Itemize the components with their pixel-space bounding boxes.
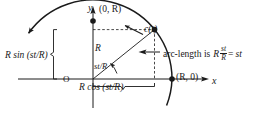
- angle-arc: [111, 64, 118, 74]
- arclength-fraction: st R: [220, 45, 227, 62]
- y-axis-label: y: [88, 3, 92, 13]
- arclength-annotation: arc-length isR st R =st: [163, 45, 242, 62]
- horizontal-leg-text: R cos (st/R): [79, 82, 123, 92]
- x-axis-label: x: [212, 76, 216, 86]
- arclength-prefix: arc-length is: [163, 49, 210, 59]
- origin-label: O: [63, 75, 70, 84]
- horizontal-leg-label: R cos (st/R): [79, 83, 123, 93]
- point-marker-right: [169, 76, 175, 82]
- point-marker-top: [90, 18, 96, 24]
- arclength-coefficient: R: [213, 49, 219, 59]
- radius-segment: [93, 30, 155, 79]
- radius-label: R: [95, 44, 101, 54]
- point-label-right: (R, 0): [176, 73, 198, 83]
- point-label-top: (0, R): [99, 5, 121, 15]
- arc-lower-segment: [167, 79, 172, 106]
- arclength-result: st: [235, 49, 241, 59]
- arclength-equals: =: [228, 49, 233, 59]
- arc-length-diagram: y x O (0, R) (R, 0) c(t) R st/R R sin (s…: [0, 0, 257, 117]
- vertical-brace: [51, 30, 58, 79]
- vertical-leg-label: R sin (st/R): [5, 51, 48, 61]
- curve-point-label: c(t): [144, 25, 157, 35]
- arclength-leader: [139, 49, 161, 54]
- vertical-leg-text: R sin (st/R): [5, 50, 48, 60]
- arclength-fraction-denominator: R: [220, 54, 227, 62]
- angle-label: st/R: [94, 62, 107, 71]
